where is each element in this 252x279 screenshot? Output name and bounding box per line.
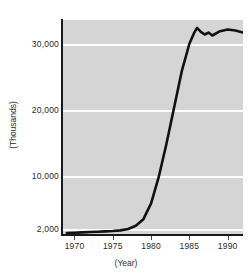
y-axis-line	[61, 19, 63, 236]
x-tick-label: 1980	[131, 241, 171, 251]
x-tick-mark	[228, 236, 229, 240]
x-tick-mark	[151, 236, 152, 240]
x-tick-label: 1970	[54, 241, 94, 251]
data-series-line	[63, 20, 243, 235]
x-tick-label: 1975	[93, 241, 133, 251]
x-tick-label: 1990	[208, 241, 248, 251]
x-tick-mark	[113, 236, 114, 240]
plot-area	[63, 20, 243, 235]
x-axis-title: (Year)	[0, 258, 252, 268]
y-tick-label: 2,000	[3, 225, 59, 234]
y-axis-title: (Thousands)	[8, 80, 18, 170]
y-tick-label: 10,000	[3, 172, 59, 181]
chart-figure: 30,000 20,000 10,000 2,000 1970 1975 198…	[0, 0, 252, 279]
x-tick-mark	[189, 236, 190, 240]
y-tick-label: 30,000	[3, 40, 59, 49]
x-tick-label: 1985	[169, 241, 209, 251]
x-tick-mark	[74, 236, 75, 240]
